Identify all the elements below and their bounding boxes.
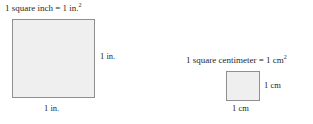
- square-centimeter-caption-exponent: 2: [284, 54, 287, 60]
- square-inch-caption-exponent: 2: [79, 2, 82, 8]
- square-inch-caption: 1 square inch = 1 in.2: [5, 3, 82, 14]
- square-centimeter-caption-text: 1 square centimeter = 1 cm: [186, 55, 284, 65]
- square-inch-height-label: 1 in.: [100, 51, 115, 61]
- area-units-figure: 1 square inch = 1 in.2 1 in. 1 in. 1 squ…: [0, 0, 313, 124]
- square-centimeter-shape: [226, 71, 260, 101]
- square-inch-caption-text: 1 square inch = 1 in.: [5, 3, 79, 13]
- square-centimeter-height-label: 1 cm: [264, 80, 281, 90]
- square-inch-width-label: 1 in.: [44, 103, 59, 113]
- square-inch-shape: [12, 19, 95, 98]
- square-centimeter-width-label: 1 cm: [232, 103, 249, 113]
- square-centimeter-caption: 1 square centimeter = 1 cm2: [186, 55, 287, 66]
